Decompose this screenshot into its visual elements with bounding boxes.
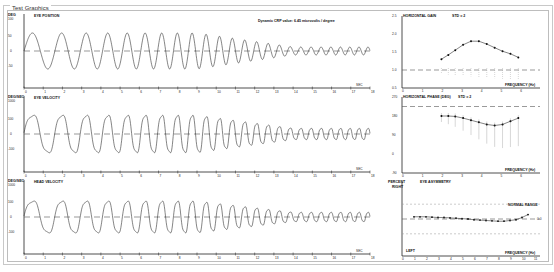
sec-label: SEC xyxy=(356,83,363,87)
x-tick-label: 2 xyxy=(63,90,65,94)
asym-title: EYE ASYMMETRY xyxy=(420,180,451,184)
x-tick-label: 12 xyxy=(256,256,260,260)
y-tick: 100 xyxy=(8,200,14,204)
x-tick-label: 14 xyxy=(294,90,298,94)
asymmetry-line xyxy=(414,215,528,222)
x-tick-label: 11 xyxy=(236,174,240,178)
crp-annotation: Dynamic CRP value: 6.45 microvolts / deg… xyxy=(258,19,335,23)
x-tick-label: 16 xyxy=(333,256,337,260)
x-tick-label: 14 xyxy=(294,256,298,260)
x-tick-label: 3 xyxy=(83,256,85,260)
x-tick-label: 4 xyxy=(102,90,104,94)
x-tick-label: 13 xyxy=(275,90,279,94)
panel-title: EYE VELOCITY xyxy=(34,96,61,100)
gain-std: STD = 2 xyxy=(452,14,465,18)
x-tick-label: 1 xyxy=(414,257,416,261)
y-tick: 0 xyxy=(10,215,12,219)
x-tick-label: 0 xyxy=(25,174,27,178)
x-tick-label: 17 xyxy=(352,90,356,94)
x-tick-label: 5 xyxy=(501,89,503,93)
x-tick-label: 2 xyxy=(63,256,65,260)
x-tick-label: 8 xyxy=(498,257,500,261)
panel-title: EYE POSITION xyxy=(34,14,60,18)
x-tick-label: 12 xyxy=(256,174,260,178)
x-tick-label: 7 xyxy=(486,257,488,261)
x-tick-label: 6 xyxy=(520,174,522,178)
x-tick-label: 3 xyxy=(83,174,85,178)
x-tick-label: 16 xyxy=(333,90,337,94)
y-tick: -90 xyxy=(392,171,397,175)
sec-label: SEC xyxy=(356,167,363,171)
x-tick-label: 1 xyxy=(44,174,46,178)
x-tick-label: 2 xyxy=(63,174,65,178)
x-tick-label: 2 xyxy=(441,89,443,93)
x-tick-label: 9 xyxy=(198,174,200,178)
x-tick-label: 10 xyxy=(217,256,221,260)
x-tick-label: 18 xyxy=(371,256,375,260)
x-tick-label: 15 xyxy=(313,256,317,260)
x-tick-label: 8 xyxy=(179,256,181,260)
x-tick-label: 7 xyxy=(160,90,162,94)
x-tick-label: 3 xyxy=(438,257,440,261)
x-tick-label: 0 xyxy=(402,257,404,261)
x-tick-label: 11 xyxy=(236,256,240,260)
x-tick-label: 1 xyxy=(44,256,46,260)
ymax-label: 1000 xyxy=(8,99,15,103)
x-tick-label: 17 xyxy=(352,174,356,178)
x-tick-label: 0 xyxy=(402,89,404,93)
x-tick-label: 12 xyxy=(256,90,260,94)
gain-title: HORIZONTAL GAIN xyxy=(403,14,437,18)
x-tick-label: 5 xyxy=(121,90,123,94)
x-tick-label: 7 xyxy=(160,174,162,178)
x-tick-label: 4 xyxy=(102,256,104,260)
x-tick-label: 18 xyxy=(371,174,375,178)
y-tick: 180 xyxy=(392,114,398,118)
x-tick-label: 11 xyxy=(236,90,240,94)
x-tick-label: 0 xyxy=(25,256,27,260)
y-tick: -100 xyxy=(8,230,15,234)
x-tick-label: 6 xyxy=(520,89,522,93)
x-tick-label: 5 xyxy=(121,174,123,178)
x-tick-label: 10 xyxy=(217,90,221,94)
x-tick-label: 4 xyxy=(450,257,452,261)
right-label: RIGHT xyxy=(392,185,404,189)
y-tick: -100 xyxy=(8,147,15,151)
y-tick: 90 xyxy=(392,133,396,137)
x-tick-label: 6 xyxy=(140,174,142,178)
x-tick-label: 1 xyxy=(422,174,424,178)
y-tick: 2.0 xyxy=(392,32,397,36)
x-tick-label: 10 xyxy=(522,257,526,261)
x-tick-label: 18 xyxy=(371,90,375,94)
x-tick-label: 6 xyxy=(474,257,476,261)
left-label: LEFT xyxy=(406,249,416,253)
y-tick: 50 xyxy=(8,34,12,38)
x-tick-label: 3 xyxy=(461,174,463,178)
phase-line xyxy=(441,116,518,126)
x-tick-label: 2 xyxy=(426,257,428,261)
x-tick-label: 8 xyxy=(179,90,181,94)
x-tick-label: 17 xyxy=(352,256,356,260)
y-tick: 2.5 xyxy=(392,14,397,18)
y-tick: 0 xyxy=(10,49,12,53)
x-tick-label: 6 xyxy=(140,256,142,260)
ymax-label: 100 xyxy=(8,17,14,21)
sec-label: SEC xyxy=(356,249,363,253)
y-tick: 0 xyxy=(392,152,394,156)
normal-range-label: NORMAL RANGE xyxy=(508,203,538,207)
phase-std: STD = 2 xyxy=(458,95,471,99)
x-tick-label: 4 xyxy=(102,174,104,178)
x-tick-label: 1 xyxy=(422,89,424,93)
y-tick: 270 xyxy=(392,95,398,99)
y-tick: 0.5 xyxy=(392,86,397,90)
chart-canvas: DEG100EYE POSITION050-50SEC0123456789101… xyxy=(0,0,554,272)
x-tick-label: 5 xyxy=(121,256,123,260)
x-tick-label: 16 xyxy=(333,174,337,178)
x-tick-label: 3 xyxy=(83,90,85,94)
x-axis-label: FREQUENCY (Hz) xyxy=(505,251,536,255)
x-tick-label: 11 xyxy=(534,257,538,261)
x-tick-label: 10 xyxy=(217,174,221,178)
x-tick-label: 1 xyxy=(44,90,46,94)
x-tick-label: 5 xyxy=(462,257,464,261)
x-tick-label: 3 xyxy=(461,89,463,93)
x-tick-label: 14 xyxy=(294,174,298,178)
